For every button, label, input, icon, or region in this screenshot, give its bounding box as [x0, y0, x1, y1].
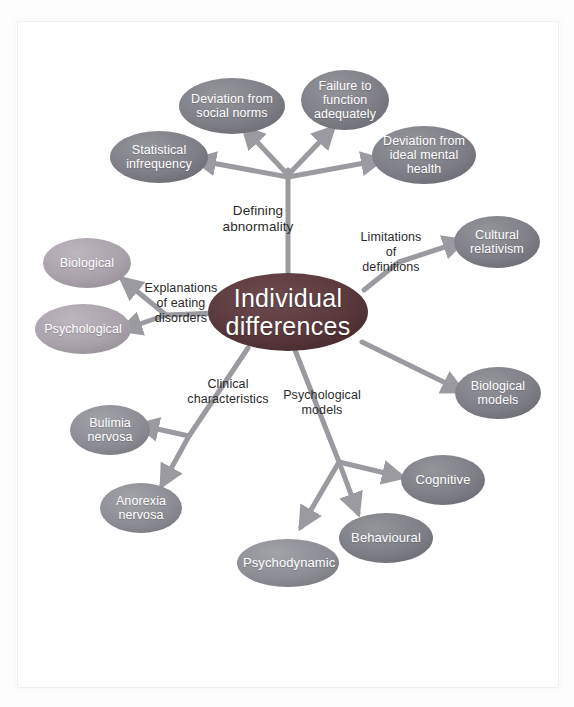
- node-failure-to-function-adequately[interactable]: Failure to function adequately: [301, 70, 389, 130]
- node-biological-models[interactable]: Biological models: [455, 367, 541, 419]
- node-line-1: Deviation from: [378, 134, 470, 148]
- node-psychodynamic[interactable]: Psychodynamic: [237, 539, 339, 587]
- branch-label-line-3: disorders: [135, 311, 227, 326]
- branch-label-line-2: abnormality: [205, 219, 311, 235]
- node-line-1: Cognitive: [407, 473, 479, 488]
- node-line-1: Anorexia: [106, 494, 176, 508]
- node-line-2: infrequency: [116, 157, 202, 171]
- node-line-1: Psychological: [41, 322, 125, 336]
- connectors-psychological-models: [295, 350, 402, 527]
- node-cognitive[interactable]: Cognitive: [401, 455, 485, 505]
- branch-label-line-3: definitions: [345, 260, 437, 275]
- branch-label-line-2: of eating: [135, 296, 227, 311]
- node-line-3: health: [378, 162, 470, 176]
- node-line-1: Cultural: [460, 228, 534, 242]
- branch-label-psychological-models: Psychological models: [272, 388, 372, 418]
- node-line-2: nervosa: [76, 430, 144, 444]
- node-line-1: Statistical: [116, 143, 202, 157]
- diagram-page: Individual differences Deviation from so…: [0, 0, 574, 707]
- node-line-2: nervosa: [106, 508, 176, 522]
- branch-label-limitations-of-definitions: Limitations of definitions: [345, 230, 437, 274]
- node-cultural-relativism[interactable]: Cultural relativism: [454, 216, 540, 268]
- node-biological[interactable]: Biological: [43, 238, 131, 288]
- node-line-2: ideal mental: [378, 148, 470, 162]
- node-psychological[interactable]: Psychological: [35, 304, 131, 354]
- node-line-1: Psychodynamic: [243, 556, 333, 571]
- branch-label-line-1: Psychological: [272, 388, 372, 403]
- node-line-2: relativism: [460, 242, 534, 256]
- branch-label-line-1: Defining: [205, 203, 311, 219]
- center-line-2: differences: [214, 312, 362, 340]
- branch-label-defining-abnormality: Defining abnormality: [205, 203, 311, 235]
- connectors-biological-models: [362, 342, 462, 391]
- node-line-1: Biological: [49, 256, 125, 270]
- node-line-1: Bulimia: [76, 416, 144, 430]
- node-line-1: Biological: [461, 379, 535, 393]
- node-statistical-infrequency[interactable]: Statistical infrequency: [110, 131, 208, 183]
- node-line-2: function: [307, 93, 383, 107]
- branch-label-line-2: characteristics: [175, 392, 281, 407]
- node-line-1: Behavioural: [345, 531, 427, 546]
- node-line-1: Deviation from: [185, 92, 279, 106]
- node-bulimia-nervosa[interactable]: Bulimia nervosa: [70, 405, 150, 455]
- node-anorexia-nervosa[interactable]: Anorexia nervosa: [100, 483, 182, 533]
- branch-label-line-1: Clinical: [175, 377, 281, 392]
- node-line-2: models: [461, 393, 535, 407]
- branch-label-clinical-characteristics: Clinical characteristics: [175, 377, 281, 407]
- node-individual-differences[interactable]: Individual differences: [208, 273, 368, 351]
- node-line-2: social norms: [185, 106, 279, 120]
- branch-label-line-2: models: [272, 403, 372, 418]
- branch-label-explanations-of-eating-disorders: Explanations of eating disorders: [135, 281, 227, 325]
- branch-label-line-1: Explanations: [135, 281, 227, 296]
- node-line-1: Failure to: [307, 79, 383, 93]
- branch-label-line-1: Limitations: [345, 230, 437, 245]
- connectors-clinical-characteristics: [139, 348, 248, 485]
- node-behavioural[interactable]: Behavioural: [339, 513, 433, 563]
- node-deviation-from-social-norms[interactable]: Deviation from social norms: [179, 78, 285, 134]
- node-deviation-from-ideal-mental-health[interactable]: Deviation from ideal mental health: [372, 126, 476, 184]
- node-line-3: adequately: [307, 107, 383, 121]
- branch-label-line-2: of: [345, 245, 437, 260]
- center-line-1: Individual: [214, 284, 362, 312]
